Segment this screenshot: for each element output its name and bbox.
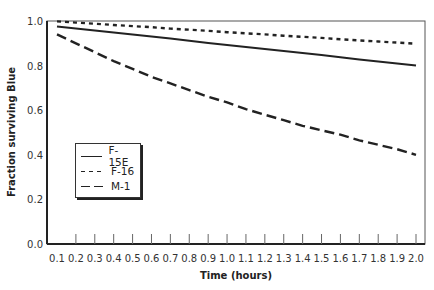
x-tick-label: 1.9 xyxy=(389,253,405,264)
y-tick-label: 1.0 xyxy=(27,16,43,27)
y-ticks: 0.00.20.40.60.81.0 xyxy=(27,16,43,250)
x-tick-label: 1.4 xyxy=(295,253,311,264)
series-line-m1 xyxy=(57,34,416,154)
x-tick-label: 0.8 xyxy=(181,253,197,264)
x-tick-label: 0.5 xyxy=(125,253,141,264)
x-tick-label: 1.2 xyxy=(257,253,273,264)
x-tick-label: 1.0 xyxy=(219,253,235,264)
line-chart: 0.10.20.30.40.50.60.70.80.91.01.11.21.31… xyxy=(0,0,434,290)
x-tick-label: 1.6 xyxy=(332,253,348,264)
y-tick-label: 0.4 xyxy=(27,150,43,161)
chart-legend: F-15E F-16 M-1 xyxy=(75,143,141,198)
x-tick-label: 1.3 xyxy=(276,253,292,264)
x-ticks: 0.10.20.30.40.50.60.70.80.91.01.11.21.31… xyxy=(49,234,424,264)
legend-item-f15e: F-15E xyxy=(81,148,135,163)
y-axis-title: Fraction surviving Blue xyxy=(6,67,17,197)
solid-line-swatch-icon xyxy=(81,155,102,157)
legend-label: M-1 xyxy=(111,180,131,192)
x-tick-label: 0.4 xyxy=(106,253,122,264)
dotted-line-swatch-icon xyxy=(81,170,105,172)
y-tick-label: 0.8 xyxy=(27,61,43,72)
x-axis-title: Time (hours) xyxy=(200,270,272,281)
x-tick-label: 1.7 xyxy=(351,253,367,264)
series-lines xyxy=(57,21,416,154)
x-tick-label: 2.0 xyxy=(408,253,424,264)
plot-frame xyxy=(47,21,425,244)
x-tick-label: 1.8 xyxy=(370,253,386,264)
legend-item-m1: M-1 xyxy=(81,178,135,193)
x-tick-label: 1.1 xyxy=(238,253,254,264)
x-tick-label: 0.3 xyxy=(87,253,103,264)
x-tick-label: 0.2 xyxy=(68,253,84,264)
dashed-line-swatch-icon xyxy=(81,185,105,187)
legend-label: F-16 xyxy=(111,165,134,177)
x-tick-label: 1.5 xyxy=(314,253,330,264)
y-tick-label: 0.6 xyxy=(27,105,43,116)
x-tick-label: 0.6 xyxy=(144,253,160,264)
y-tick-label: 0.2 xyxy=(27,194,43,205)
y-tick-label: 0.0 xyxy=(27,239,43,250)
x-tick-label: 0.9 xyxy=(200,253,216,264)
x-tick-label: 0.1 xyxy=(49,253,65,264)
x-tick-label: 0.7 xyxy=(162,253,178,264)
